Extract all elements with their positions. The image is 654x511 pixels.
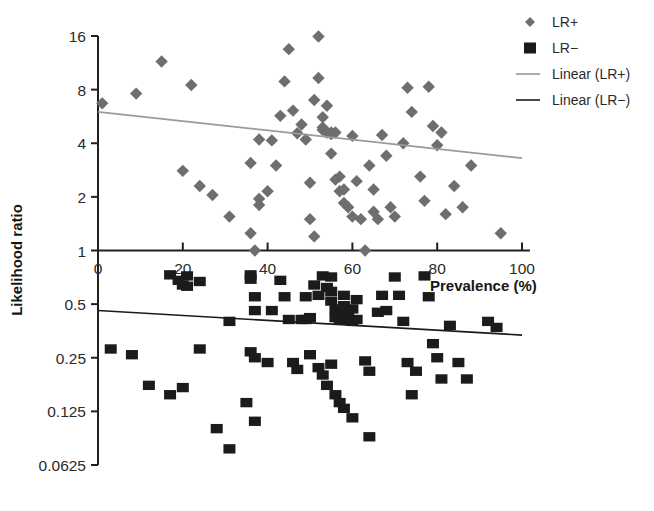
data-point-lr-plus — [401, 82, 413, 94]
y-tick-label: 1 — [77, 243, 86, 260]
data-point-lr-minus — [402, 358, 414, 367]
data-point-lr-minus — [325, 272, 337, 281]
data-point-lr-plus — [206, 189, 218, 201]
data-point-lr-plus — [350, 175, 362, 187]
data-point-lr-minus — [423, 292, 435, 301]
y-tick-label: 8 — [77, 82, 86, 99]
data-point-lr-plus — [435, 126, 447, 138]
data-point-lr-plus — [359, 244, 371, 256]
data-point-lr-minus — [376, 291, 388, 300]
data-point-lr-minus — [194, 277, 206, 286]
data-point-lr-minus — [262, 358, 274, 367]
data-point-lr-minus — [359, 356, 371, 365]
data-point-lr-plus — [406, 106, 418, 118]
data-point-lr-plus — [367, 183, 379, 195]
x-tick-label: 80 — [429, 260, 447, 277]
data-point-lr-plus — [130, 87, 142, 99]
legend-marker-lr-minus — [524, 43, 536, 54]
trendline-lr-plus — [98, 112, 522, 158]
data-point-lr-plus — [380, 150, 392, 162]
chart-figure: 1684210.50.250.1250.0625020406080100Like… — [0, 0, 654, 511]
data-point-lr-plus — [418, 195, 430, 207]
scatter-plot: 1684210.50.250.1250.0625020406080100Like… — [0, 0, 654, 511]
y-tick-label: 0.25 — [56, 350, 86, 367]
data-point-lr-minus — [164, 390, 176, 399]
data-point-lr-minus — [393, 291, 405, 300]
y-tick-label: 0.125 — [47, 403, 86, 420]
data-point-lr-minus — [482, 317, 494, 326]
data-point-lr-minus — [351, 295, 363, 304]
data-point-lr-plus — [456, 201, 468, 213]
data-point-lr-minus — [431, 353, 443, 362]
data-point-lr-plus — [321, 99, 333, 111]
x-tick-label: 40 — [259, 260, 277, 277]
legend-label: LR+ — [552, 14, 578, 30]
data-point-lr-plus — [223, 210, 235, 222]
data-point-lr-minus — [435, 374, 447, 383]
data-point-lr-minus — [143, 381, 155, 390]
data-point-lr-plus — [283, 43, 295, 55]
data-point-lr-minus — [389, 272, 401, 281]
data-point-lr-plus — [249, 244, 261, 256]
data-point-lr-minus — [461, 374, 473, 383]
data-point-lr-minus — [274, 276, 286, 285]
data-point-lr-minus — [300, 292, 312, 301]
data-point-lr-minus — [346, 413, 358, 422]
data-point-lr-plus — [270, 159, 282, 171]
data-point-lr-plus — [244, 157, 256, 169]
x-tick-label: 100 — [509, 260, 535, 277]
data-point-lr-plus — [495, 227, 507, 239]
data-point-lr-plus — [155, 55, 167, 67]
data-point-lr-plus — [274, 110, 286, 122]
data-point-lr-minus — [406, 390, 418, 399]
data-point-lr-minus — [338, 404, 350, 413]
data-point-lr-plus — [448, 180, 460, 192]
data-point-lr-minus — [308, 280, 320, 289]
y-tick-label: 4 — [77, 135, 86, 152]
data-point-lr-minus — [397, 317, 409, 326]
data-point-lr-plus — [304, 213, 316, 225]
data-point-lr-plus — [439, 208, 451, 220]
data-point-lr-minus — [249, 306, 261, 315]
data-point-lr-minus — [266, 306, 278, 315]
data-point-lr-plus — [414, 170, 426, 182]
data-point-lr-minus — [181, 282, 193, 291]
data-point-lr-minus — [444, 321, 456, 330]
data-point-lr-plus — [308, 230, 320, 242]
x-tick-label: 60 — [344, 260, 362, 277]
data-point-lr-plus — [266, 134, 278, 146]
data-point-lr-minus — [317, 370, 329, 379]
y-tick-label: 0.0625 — [39, 457, 86, 474]
data-point-lr-minus — [427, 339, 439, 348]
data-point-lr-plus — [244, 227, 256, 239]
data-point-lr-minus — [325, 287, 337, 296]
data-point-lr-minus — [249, 417, 261, 426]
data-point-lr-minus — [245, 275, 257, 284]
data-point-lr-plus — [397, 137, 409, 149]
data-point-lr-minus — [321, 381, 333, 390]
data-point-lr-plus — [427, 120, 439, 132]
data-point-lr-plus — [177, 165, 189, 177]
data-point-lr-minus — [279, 292, 291, 301]
data-point-lr-plus — [312, 72, 324, 84]
data-point-lr-plus — [287, 104, 299, 116]
data-point-lr-minus — [249, 292, 261, 301]
legend-label: Linear (LR+) — [552, 66, 630, 82]
data-point-lr-plus — [423, 81, 435, 93]
data-point-lr-minus — [351, 315, 363, 324]
data-point-lr-plus — [325, 147, 337, 159]
data-point-lr-minus — [418, 271, 430, 280]
x-tick-label: 0 — [94, 260, 103, 277]
data-point-lr-minus — [346, 304, 358, 313]
legend-marker-lr-plus — [525, 17, 535, 27]
y-axis-title: Likelihood ratio — [8, 204, 25, 316]
data-point-lr-minus — [363, 432, 375, 441]
data-point-lr-minus — [410, 367, 422, 376]
data-point-lr-plus — [278, 75, 290, 87]
data-point-lr-minus — [240, 398, 252, 407]
data-point-lr-minus — [363, 367, 375, 376]
y-tick-label: 2 — [77, 189, 86, 206]
legend-label: Linear (LR−) — [552, 92, 630, 108]
data-point-lr-minus — [211, 424, 223, 433]
data-point-lr-minus — [283, 315, 295, 324]
